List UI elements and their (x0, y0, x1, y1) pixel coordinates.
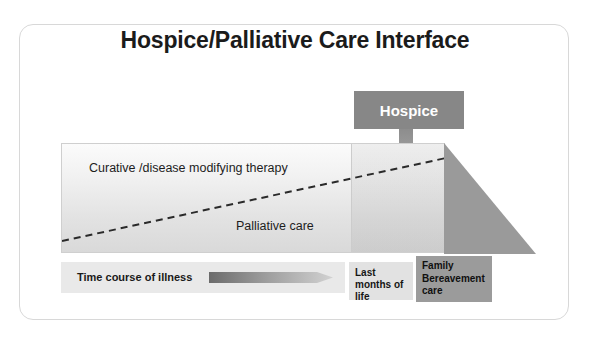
page-title: Hospice/Palliative Care Interface (0, 27, 590, 54)
phase-last-months-box: Last months of life (349, 262, 413, 300)
right-arrow-icon (209, 271, 333, 284)
phase-family-bereavement-label: Family Bereavement care (422, 260, 492, 298)
bereavement-triangle (444, 143, 536, 254)
hospice-callout-box: Hospice (354, 91, 464, 129)
palliative-care-label: Palliative care (236, 219, 314, 233)
panel-last-months-column (351, 144, 446, 252)
time-course-bar: Time course of illness (61, 262, 345, 293)
hospice-callout-label: Hospice (380, 102, 438, 119)
curative-therapy-label: Curative /disease modifying therapy (89, 161, 288, 175)
phase-last-months-label: Last months of life (355, 267, 413, 303)
time-course-label: Time course of illness (77, 271, 192, 283)
slide-canvas: Hospice/Palliative Care Interface Hospic… (0, 0, 590, 339)
care-continuum-panel: Curative /disease modifying therapy Pall… (61, 143, 445, 253)
phase-family-bereavement-box: Family Bereavement care (416, 256, 492, 302)
